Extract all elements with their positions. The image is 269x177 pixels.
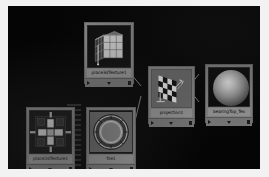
node-buttons-place3dTexture1[interactable] <box>85 78 133 87</box>
swatch-place2dTexture1[interactable] <box>29 110 72 154</box>
expand-down-icon[interactable] <box>107 82 111 85</box>
input-arrow-icon[interactable] <box>151 121 154 125</box>
mechanical-plate-icon <box>30 111 71 153</box>
node-label-bearingTop_Tex: bearingTop_Tex <box>208 108 250 116</box>
expand-down-icon[interactable] <box>227 121 231 124</box>
graph-canvas-inner: place3dTexture1 <box>8 6 260 169</box>
output-square-icon[interactable] <box>130 167 134 169</box>
expand-down-icon[interactable] <box>48 168 52 170</box>
input-arrow-icon[interactable] <box>208 120 211 124</box>
output-square-icon[interactable] <box>128 81 132 85</box>
node-buttons-projection1[interactable] <box>149 118 194 127</box>
input-arrow-icon[interactable] <box>87 81 90 85</box>
expand-down-icon[interactable] <box>169 122 173 125</box>
swatch-place3dTexture1[interactable] <box>87 25 131 68</box>
expand-down-icon[interactable] <box>109 168 113 170</box>
bearing-ring-texture-icon <box>90 111 132 153</box>
node-place3dTexture1[interactable]: place3dTexture1 <box>84 22 134 84</box>
output-square-icon[interactable] <box>189 121 193 125</box>
shaded-sphere-icon <box>213 70 249 106</box>
node-file1[interactable]: file1 <box>86 107 136 169</box>
node-buttons-file1[interactable] <box>87 164 135 169</box>
node-place2dTexture1[interactable]: place2dTexture1 <box>26 107 75 169</box>
node-buttons-place2dTexture1[interactable] <box>27 164 74 169</box>
output-square-icon[interactable] <box>69 167 73 169</box>
node-buttons-bearingTop_Tex[interactable] <box>206 117 252 126</box>
node-projection1[interactable]: projection1 <box>148 66 195 124</box>
swatch-projection1[interactable] <box>151 69 192 108</box>
node-label-file1: file1 <box>89 155 133 163</box>
node-label-place2dTexture1: place2dTexture1 <box>29 155 72 163</box>
input-arrow-icon[interactable] <box>89 167 92 169</box>
screenshot-page: place3dTexture1 <box>0 0 269 177</box>
hypershade-work-area-canvas[interactable]: place3dTexture1 <box>8 6 260 169</box>
node-label-place3dTexture1: place3dTexture1 <box>87 69 131 77</box>
input-arrow-icon[interactable] <box>29 167 32 169</box>
output-square-icon[interactable] <box>247 120 251 124</box>
checkerboard-projection-icon <box>152 70 191 107</box>
swatch-file1[interactable] <box>89 110 133 154</box>
node-bearingTop_Tex[interactable]: bearingTop_Tex <box>205 64 253 123</box>
swatch-bearingTop_Tex[interactable] <box>208 67 250 107</box>
node-label-projection1: projection1 <box>151 109 192 117</box>
cube-placement-gizmo-icon <box>88 26 130 67</box>
